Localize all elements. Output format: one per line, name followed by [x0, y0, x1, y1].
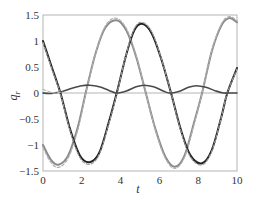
line-chart: 1.510.50−0.5−1−1.5 0246810 t qr [0, 0, 253, 208]
series-line-2 [43, 24, 237, 164]
x-tick-label: 10 [232, 174, 244, 186]
series-group [43, 17, 237, 169]
y-tick-label: −1.5 [19, 165, 39, 177]
x-tick-label: 8 [195, 174, 201, 186]
x-tick-label: 0 [40, 174, 46, 186]
series-line-4 [43, 85, 237, 93]
y-tick-label: 1 [34, 35, 40, 47]
y-tick-label: 0 [34, 87, 40, 99]
y-axis-ticks: 1.510.50−0.5−1−1.5 [19, 9, 39, 177]
series-line-0 [43, 18, 237, 167]
x-tick-label: 4 [118, 174, 124, 186]
y-axis-label: qr [6, 91, 22, 101]
x-tick-label: 2 [79, 174, 85, 186]
y-tick-label: −0.5 [19, 113, 39, 125]
x-axis-ticks: 0246810 [40, 174, 243, 186]
y-tick-label: −1 [27, 139, 39, 151]
x-tick-label: 6 [157, 174, 163, 186]
y-tick-label: 0.5 [25, 61, 39, 73]
x-axis-label: t [136, 182, 140, 196]
y-tick-label: 1.5 [25, 9, 39, 21]
